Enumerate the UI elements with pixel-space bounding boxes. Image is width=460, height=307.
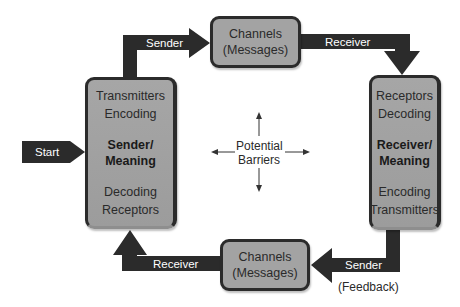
sender-feedback-arrow-label: Sender [345,258,382,272]
sender-line-receptors: Receptors [102,201,159,219]
channels-bottom-line-2: (Messages) [232,265,297,281]
sender-line-transmitters: Transmitters [96,87,165,105]
feedback-note: (Feedback) [338,280,399,294]
sender-line-encoding: Encoding [104,105,156,123]
sender-arrow-top-label: Sender [146,36,183,50]
receiver-arrow-bottom-label: Receiver [153,257,198,271]
receiver-line-decoding: Decoding [378,105,431,123]
channels-box-top: Channels (Messages) [210,16,301,68]
barriers-line-2: Barriers [236,153,282,167]
channels-top-line-1: Channels [229,26,282,42]
sender-line-decoding: Decoding [104,183,157,201]
sender-title-2: Meaning [105,153,156,169]
receiver-line-encoding: Encoding [378,183,430,201]
receiver-title-2: Meaning [379,153,430,169]
channels-top-line-2: (Messages) [223,42,288,58]
start-label: Start [35,145,59,159]
receiver-arrow-top-label: Receiver [325,35,370,49]
receiver-line-receptors: Receptors [376,87,433,105]
receiver-meaning-box: Receptors Decoding Receiver/ Meaning Enc… [369,75,441,230]
sender-meaning-box: Transmitters Encoding Sender/ Meaning De… [85,77,177,229]
sender-title-1: Sender/ [108,137,154,153]
receiver-title-1: Receiver/ [377,137,433,153]
sender-feedback-arrow [311,229,400,283]
receiver-line-transmitters: Transmitters [370,201,439,219]
potential-barriers-label: Potential Barriers [236,139,282,167]
channels-bottom-line-1: Channels [239,249,292,265]
barriers-line-1: Potential [236,139,282,153]
channels-box-bottom: Channels (Messages) [220,239,310,291]
